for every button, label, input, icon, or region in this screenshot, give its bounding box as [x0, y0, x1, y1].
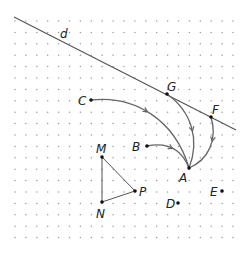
grid-dot: [80, 203, 82, 205]
grid-dot: [200, 146, 202, 148]
grid-dot: [156, 123, 158, 125]
grid-dot: [123, 146, 125, 148]
grid-dot: [221, 66, 223, 68]
grid-dot: [178, 54, 180, 56]
grid-dot: [80, 89, 82, 91]
grid-dot: [69, 225, 71, 227]
grid-dot: [25, 146, 27, 148]
grid-dot: [112, 237, 114, 239]
grid-dot: [221, 237, 223, 239]
grid-dot: [232, 20, 234, 22]
grid-dot: [25, 54, 27, 56]
grid-dot: [232, 54, 234, 56]
grid-dot: [156, 43, 158, 45]
grid-dot: [80, 214, 82, 216]
grid-dot: [221, 214, 223, 216]
grid-dot: [112, 43, 114, 45]
grid-dot: [36, 54, 38, 56]
grid-dot: [232, 77, 234, 79]
grid-dot: [14, 180, 16, 182]
grid-dot: [36, 146, 38, 148]
grid-dot: [58, 100, 60, 102]
grid-dot: [189, 146, 191, 148]
grid-dot: [25, 191, 27, 193]
grid-dot: [58, 146, 60, 148]
grid-dot: [210, 157, 212, 159]
grid-dot: [221, 77, 223, 79]
grid-dot: [156, 237, 158, 239]
grid-dot: [156, 100, 158, 102]
grid-dot: [134, 180, 136, 182]
grid-dot: [156, 111, 158, 113]
grid-dot: [145, 134, 147, 136]
grid-dot: [36, 180, 38, 182]
grid-dot: [47, 32, 49, 34]
grid-dot: [69, 111, 71, 113]
grid-dot: [14, 89, 16, 91]
grid-dot: [145, 237, 147, 239]
grid-dot: [112, 89, 114, 91]
grid-dot: [25, 100, 27, 102]
grid-dot: [25, 123, 27, 125]
grid-dot: [167, 20, 169, 22]
grid-dot: [14, 146, 16, 148]
grid-dot: [101, 89, 103, 91]
grid-dot: [91, 180, 93, 182]
grid-dot: [69, 123, 71, 125]
grid-dot: [25, 43, 27, 45]
grid-dot: [145, 180, 147, 182]
grid-dot: [36, 111, 38, 113]
grid-dot: [36, 66, 38, 68]
grid-dot: [232, 191, 234, 193]
grid-dot: [58, 123, 60, 125]
grid-dot: [36, 157, 38, 159]
grid-dot: [112, 134, 114, 136]
point-label-G: G: [167, 80, 176, 94]
grid-dot: [112, 180, 114, 182]
grid-dot: [221, 111, 223, 113]
grid-dot: [167, 134, 169, 136]
grid-dot: [189, 77, 191, 79]
grid-dot: [232, 237, 234, 239]
grid-dot: [25, 66, 27, 68]
grid-dot: [200, 66, 202, 68]
grid-dot: [134, 168, 136, 170]
grid-dot: [91, 20, 93, 22]
grid-dot: [189, 237, 191, 239]
grid-dot: [123, 111, 125, 113]
grid-dot: [36, 168, 38, 170]
grid-dot: [232, 180, 234, 182]
grid-dot: [58, 157, 60, 159]
grid-dot: [189, 157, 191, 159]
grid-dot: [134, 157, 136, 159]
line-d-label: d: [60, 27, 68, 41]
grid-dot: [167, 77, 169, 79]
grid-dot: [80, 168, 82, 170]
grid-dot: [134, 66, 136, 68]
grid-dot: [80, 111, 82, 113]
grid-dot: [36, 89, 38, 91]
grid-dot: [58, 77, 60, 79]
grid-dot: [47, 111, 49, 113]
grid-dot: [36, 100, 38, 102]
point-label-D: D: [166, 197, 175, 211]
grid-dot: [47, 237, 49, 239]
grid-dot: [14, 43, 16, 45]
grid-dot: [134, 225, 136, 227]
grid-dot: [210, 134, 212, 136]
grid-dot: [47, 134, 49, 136]
grid-dot: [112, 191, 114, 193]
grid-dot: [123, 237, 125, 239]
grid-dot: [178, 134, 180, 136]
point-label-A: A: [178, 171, 187, 185]
grid-dot: [145, 32, 147, 34]
grid-dot: [189, 134, 191, 136]
grid-dot: [156, 168, 158, 170]
grid-dot: [178, 20, 180, 22]
line-d: [14, 17, 236, 130]
grid-dot: [36, 191, 38, 193]
point-E: [220, 189, 224, 193]
grid-dot: [232, 111, 234, 113]
grid-dot: [210, 66, 212, 68]
grid-dot: [47, 146, 49, 148]
